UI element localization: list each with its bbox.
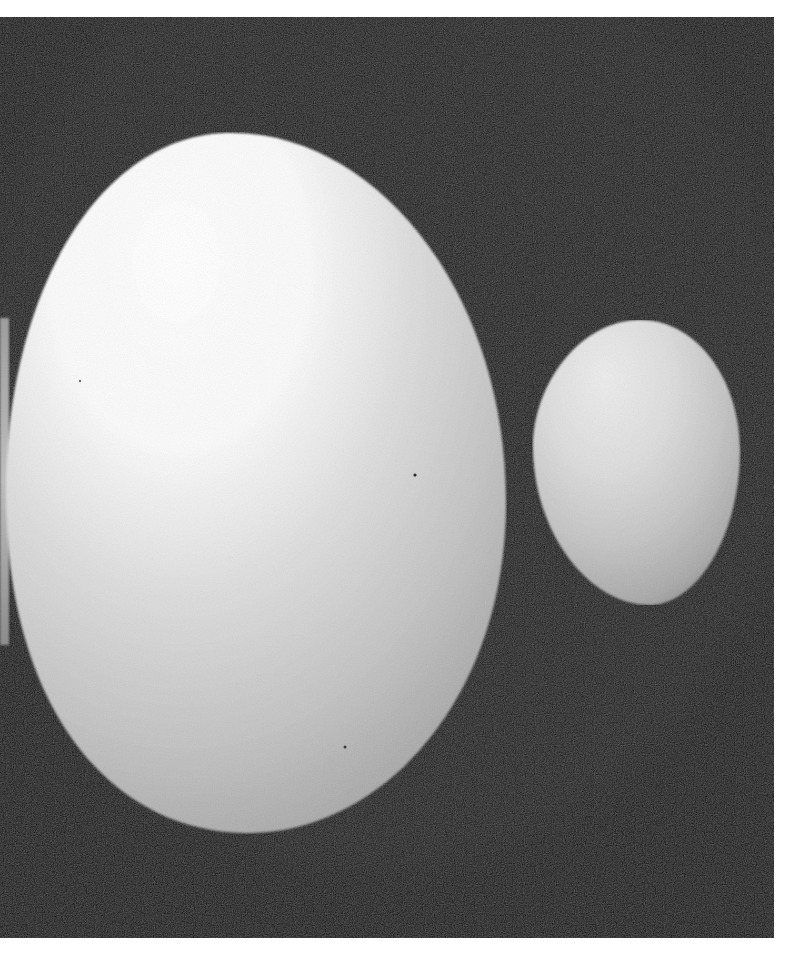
shell-speck	[344, 746, 347, 749]
shell-speck	[413, 473, 416, 476]
egg-photograph: Black-and-white photograph of a large wh…	[0, 0, 786, 969]
shell-speck	[79, 380, 81, 382]
photo-canvas	[0, 0, 786, 969]
